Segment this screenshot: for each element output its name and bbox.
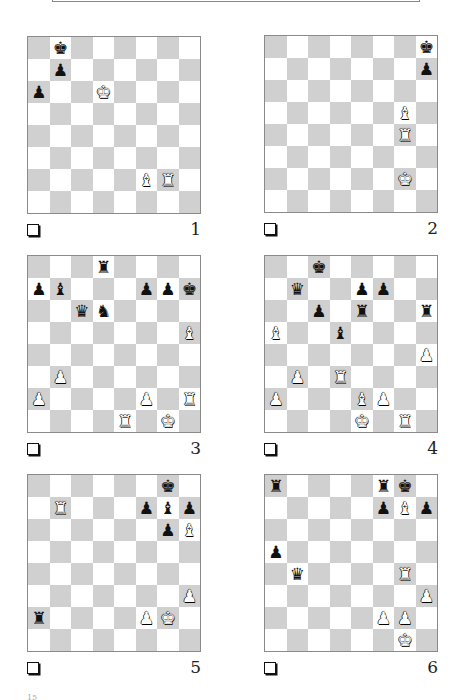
square-c1	[308, 190, 330, 212]
square-d7	[330, 497, 352, 519]
square-d1	[93, 629, 115, 651]
checkbox[interactable]	[27, 224, 39, 236]
white-bishop-icon: ♝	[268, 325, 283, 342]
square-h5	[416, 541, 438, 563]
checkbox[interactable]	[264, 662, 276, 674]
square-c5	[71, 322, 93, 344]
square-e8	[114, 475, 136, 497]
square-g4	[157, 563, 179, 585]
square-b2	[287, 388, 309, 410]
square-b5	[287, 541, 309, 563]
square-e4	[351, 124, 373, 146]
square-c6	[71, 519, 93, 541]
black-pawn-icon: ♟	[268, 544, 283, 561]
chess-diagram-3: ♜♟♝♟♟♚♛♞♝♟♟♟♜♜♚ 3	[27, 255, 227, 465]
square-h6	[416, 80, 438, 102]
square-g6	[394, 300, 416, 322]
square-a3	[28, 585, 50, 607]
black-pawn-icon: ♟	[376, 281, 391, 298]
square-d1	[93, 410, 115, 432]
square-e6	[351, 519, 373, 541]
black-queen-icon: ♛	[74, 303, 89, 320]
square-g4: ♜	[394, 124, 416, 146]
black-king-icon: ♚	[160, 478, 175, 495]
black-king-icon: ♚	[53, 40, 68, 57]
square-b1	[287, 190, 309, 212]
square-d6: ♞	[93, 300, 115, 322]
square-f8: ♜	[373, 475, 395, 497]
black-king-icon: ♚	[419, 39, 434, 56]
square-c7	[71, 278, 93, 300]
square-b6	[287, 300, 309, 322]
square-a5	[265, 102, 287, 124]
white-pawn-icon: ♟	[419, 588, 434, 605]
square-g3	[394, 146, 416, 168]
square-b3	[287, 146, 309, 168]
square-g5	[157, 103, 179, 125]
square-h2	[416, 168, 438, 190]
checkbox[interactable]	[264, 223, 276, 235]
white-rook-icon: ♜	[397, 127, 412, 144]
black-pawn-icon: ♟	[139, 500, 154, 517]
square-e2	[114, 607, 136, 629]
square-e5	[351, 322, 373, 344]
square-e2	[351, 607, 373, 629]
square-h8: ♚	[416, 36, 438, 58]
square-a8: ♜	[265, 475, 287, 497]
square-c2	[308, 607, 330, 629]
square-h1	[179, 191, 201, 213]
square-a2	[265, 168, 287, 190]
square-d6: ♚	[93, 81, 115, 103]
square-h3: ♟	[179, 585, 201, 607]
square-a8	[28, 475, 50, 497]
square-b7	[287, 58, 309, 80]
white-rook-icon: ♜	[397, 413, 412, 430]
square-b8	[50, 256, 72, 278]
square-b4	[50, 344, 72, 366]
square-g7	[394, 58, 416, 80]
square-h1	[416, 629, 438, 651]
square-f6	[373, 519, 395, 541]
square-f6	[373, 80, 395, 102]
square-d4	[93, 344, 115, 366]
square-b1	[50, 410, 72, 432]
black-pawn-icon: ♟	[160, 522, 175, 539]
black-bishop-icon: ♝	[53, 281, 68, 298]
square-g1	[157, 191, 179, 213]
square-b7: ♜	[50, 497, 72, 519]
chessboard: ♚♟♟♚♝♜	[27, 36, 201, 214]
square-g8	[394, 256, 416, 278]
square-f3	[373, 585, 395, 607]
square-h3	[416, 146, 438, 168]
square-f7: ♟	[373, 278, 395, 300]
square-h4	[179, 563, 201, 585]
square-a7	[28, 59, 50, 81]
square-g3	[157, 366, 179, 388]
checkbox[interactable]	[27, 662, 39, 674]
square-f1	[373, 190, 395, 212]
square-b7	[287, 497, 309, 519]
white-pawn-icon: ♟	[397, 610, 412, 627]
square-g7: ♝	[157, 497, 179, 519]
square-f2: ♟	[136, 388, 158, 410]
square-f5	[373, 322, 395, 344]
square-h5	[179, 103, 201, 125]
square-a1	[28, 629, 50, 651]
checkbox[interactable]	[27, 443, 39, 455]
square-g1	[157, 629, 179, 651]
square-e7	[351, 58, 373, 80]
square-h8	[179, 475, 201, 497]
square-d3	[93, 147, 115, 169]
checkbox[interactable]	[264, 443, 276, 455]
square-b3	[287, 585, 309, 607]
square-h4: ♟	[416, 344, 438, 366]
square-a5	[28, 541, 50, 563]
square-h4	[179, 125, 201, 147]
square-h2	[179, 169, 201, 191]
square-f1	[373, 410, 395, 432]
square-f4	[136, 125, 158, 147]
square-a4	[28, 125, 50, 147]
square-b7: ♛	[287, 278, 309, 300]
square-c5	[71, 103, 93, 125]
square-a6	[265, 300, 287, 322]
